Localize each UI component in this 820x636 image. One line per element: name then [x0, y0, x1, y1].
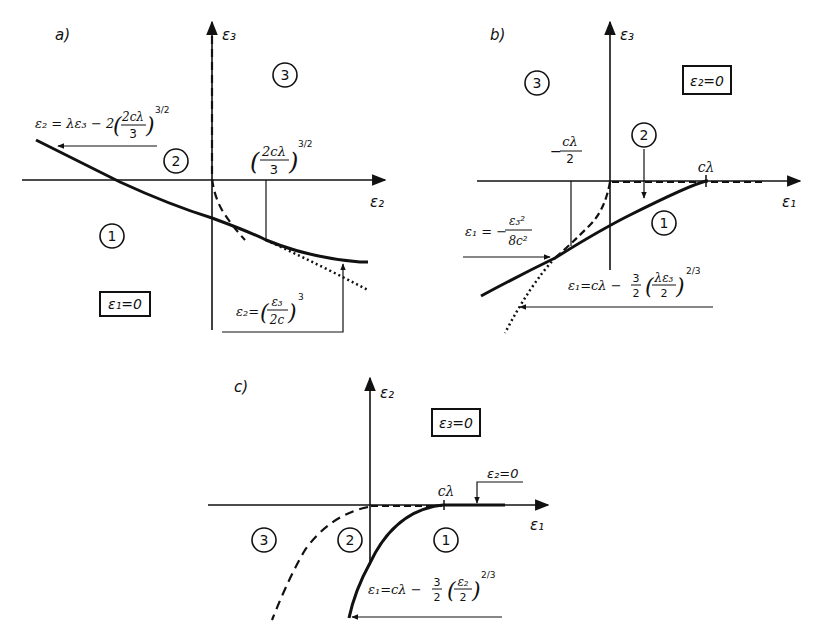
svg-text:(: (: [113, 113, 122, 138]
svg-text:cλ: cλ: [562, 134, 578, 149]
svg-text:(: (: [260, 300, 269, 325]
svg-text:ε₂ = λε₃ − 2: ε₂ = λε₃ − 2: [35, 116, 114, 131]
svg-text:1: 1: [442, 532, 451, 548]
formula-parabola: ε₁ = − ε₃² 8c²: [465, 214, 532, 248]
svg-text:2: 2: [640, 127, 649, 143]
solid-boundary-curve: [349, 505, 443, 618]
svg-text:3: 3: [298, 292, 304, 302]
panel-a: a) ε₃ ε₂ 3 2 1: [22, 22, 385, 332]
zero-pointer: [477, 482, 523, 503]
region-1: 1: [100, 224, 124, 248]
condition-box: ε₁=0: [100, 292, 150, 316]
svg-text:2cλ: 2cλ: [121, 110, 144, 124]
svg-text:2: 2: [172, 153, 181, 169]
panel-label: a): [55, 26, 70, 44]
panel-b: b) ε₃ ε₁ cλ − cλ 2 3 2: [463, 22, 800, 333]
y-axis-label: ε₂: [380, 384, 394, 402]
svg-text:): ): [145, 113, 155, 138]
formula-cubic: ε₂= ( ε₃ 2c ) 3: [236, 292, 304, 327]
diagram-canvas: a) ε₃ ε₂ 3 2 1: [0, 0, 820, 636]
svg-text:): ): [287, 300, 297, 325]
panel-label: b): [490, 26, 505, 44]
region-1: 1: [434, 528, 458, 552]
dashed-boundary: [555, 182, 610, 258]
svg-text:8c²: 8c²: [508, 234, 527, 248]
svg-text:ε₁=cλ −: ε₁=cλ −: [368, 582, 422, 597]
svg-text:): ): [288, 148, 298, 176]
dotted-extension: [266, 240, 368, 290]
panel-label: c): [234, 378, 248, 396]
svg-text:3: 3: [633, 272, 640, 285]
svg-text:): ): [675, 274, 685, 299]
svg-text:2: 2: [434, 591, 441, 604]
tick-label: ( 2cλ 3 ) 3/2: [250, 139, 312, 177]
svg-text:1: 1: [660, 215, 669, 231]
region-3: 3: [525, 71, 549, 95]
svg-text:3: 3: [281, 67, 290, 83]
svg-text:3/2: 3/2: [298, 139, 312, 149]
formula-curve: ε₁=cλ − 3 2 ( λε₃ 2 ) 2/3: [568, 266, 700, 300]
svg-text:2cλ: 2cλ: [261, 144, 286, 159]
panel-c: c) ε₂ ε₁ cλ ε₂=0 3 2 1: [208, 378, 548, 620]
svg-text:ε₁=0: ε₁=0: [108, 296, 142, 312]
svg-text:2: 2: [633, 287, 640, 300]
svg-text:(: (: [447, 578, 456, 603]
region-3: 3: [273, 63, 297, 87]
svg-text:−: −: [550, 143, 562, 159]
x-axis-label: ε₂: [370, 193, 384, 211]
svg-text:2/3: 2/3: [481, 570, 495, 580]
x-axis-label: ε₁: [530, 516, 544, 534]
svg-text:2: 2: [346, 532, 355, 548]
svg-text:ε₁ = −: ε₁ = −: [465, 224, 507, 239]
y-axis-label: ε₃: [620, 26, 634, 44]
dashed-boundary: [212, 36, 245, 240]
svg-text:(: (: [645, 274, 654, 299]
svg-text:2c: 2c: [269, 313, 285, 327]
condition-box: ε₂=0: [683, 66, 731, 94]
svg-text:): ): [471, 578, 481, 603]
svg-text:2: 2: [566, 152, 574, 166]
svg-text:3: 3: [533, 75, 542, 91]
svg-text:1: 1: [108, 228, 117, 244]
svg-text:ε₃: ε₃: [271, 295, 282, 309]
region-2: 2: [338, 528, 362, 552]
svg-text:2: 2: [460, 591, 467, 604]
svg-text:ε₂=: ε₂=: [236, 304, 259, 319]
svg-text:ε₃=0: ε₃=0: [439, 415, 473, 431]
svg-text:3: 3: [129, 127, 137, 141]
svg-text:3: 3: [434, 576, 441, 589]
zero-annotation: ε₂=0: [487, 466, 518, 481]
region-2: 2: [632, 123, 656, 147]
svg-text:ε₃²: ε₃²: [509, 214, 525, 228]
svg-text:ε₂=0: ε₂=0: [690, 73, 724, 89]
region-2: 2: [164, 149, 188, 173]
svg-text:ε₁=cλ −: ε₁=cλ −: [568, 278, 622, 293]
condition-box: ε₃=0: [432, 409, 480, 436]
solid-boundary-curve: [36, 140, 368, 262]
tick-label-left: − cλ 2: [550, 134, 582, 166]
formula-curve: ε₁=cλ − 3 2 ( ε₂ 2 ) 2/3: [368, 570, 495, 604]
x-axis-label: ε₁: [782, 193, 796, 211]
y-axis-label: ε₃: [222, 26, 236, 44]
svg-text:λε₃: λε₃: [654, 271, 674, 285]
svg-text:2: 2: [661, 287, 668, 300]
tick-label-right: cλ: [438, 483, 455, 499]
svg-text:3: 3: [260, 532, 269, 548]
svg-text:3: 3: [270, 162, 278, 177]
svg-text:2/3: 2/3: [686, 266, 700, 276]
svg-text:ε₂: ε₂: [457, 575, 468, 589]
svg-text:3/2: 3/2: [155, 105, 169, 115]
tick-label-right: cλ: [698, 159, 715, 175]
svg-text:(: (: [250, 148, 260, 176]
region-1: 1: [652, 211, 676, 235]
region-3: 3: [252, 528, 276, 552]
formula-line-boundary: ε₂ = λε₃ − 2 ( 2cλ 3 ) 3/2: [35, 105, 169, 141]
